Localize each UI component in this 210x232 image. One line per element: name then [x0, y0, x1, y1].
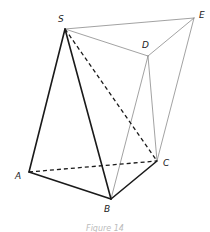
edge-de	[148, 18, 194, 56]
figure-caption: Figure 14	[86, 224, 124, 232]
edge-se	[65, 18, 194, 29]
edge-ac	[29, 161, 157, 172]
vertex-label-d: D	[142, 40, 149, 50]
edge-sd	[65, 29, 148, 56]
edge-dc	[148, 56, 157, 161]
vertex-labels-group: SEDCAB	[14, 10, 205, 214]
vertex-label-e: E	[199, 10, 205, 20]
edges-group	[29, 18, 194, 199]
edge-sa	[29, 29, 65, 172]
edge-db	[111, 56, 148, 199]
edge-sb	[65, 29, 111, 199]
edge-ab	[29, 172, 111, 199]
vertex-label-b: B	[104, 204, 110, 214]
vertex-label-c: C	[163, 158, 170, 168]
edge-ec	[157, 18, 194, 161]
geometry-diagram: SEDCAB Figure 14	[0, 0, 210, 232]
edge-bc	[111, 161, 157, 199]
vertex-label-s: S	[58, 14, 64, 24]
vertex-label-a: A	[14, 171, 21, 181]
